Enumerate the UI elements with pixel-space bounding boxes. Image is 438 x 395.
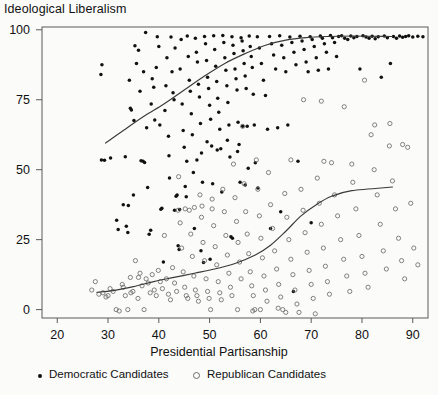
data-point (367, 36, 371, 40)
data-point (278, 34, 282, 38)
data-point (279, 210, 283, 214)
data-point (251, 294, 255, 298)
data-point (189, 232, 193, 236)
x-tick-label: 30 (101, 328, 115, 340)
data-point (133, 259, 137, 263)
data-point (259, 236, 263, 240)
x-tick-label: 20 (50, 328, 64, 340)
data-point (407, 34, 411, 38)
data-point (156, 268, 160, 272)
data-point (398, 34, 402, 38)
data-point (312, 45, 316, 49)
data-point (135, 62, 139, 66)
data-point (158, 123, 162, 127)
data-point (204, 277, 208, 281)
data-point (189, 90, 193, 94)
data-point (224, 233, 228, 237)
data-point (380, 76, 384, 80)
data-point (144, 31, 148, 35)
data-point (162, 260, 166, 264)
data-point (218, 127, 222, 131)
x-tick-label: 70 (304, 328, 318, 340)
data-point (201, 181, 205, 185)
data-point (247, 252, 251, 256)
data-point (409, 201, 413, 205)
data-point (276, 306, 280, 310)
data-point (207, 87, 211, 91)
data-point (323, 264, 327, 268)
data-point (148, 291, 152, 295)
data-point (198, 95, 202, 99)
data-point (209, 308, 213, 312)
data-point (375, 193, 379, 197)
data-point (213, 48, 217, 52)
data-point (162, 233, 166, 237)
data-point (248, 270, 252, 274)
data-point (363, 271, 367, 275)
data-point (203, 35, 207, 39)
data-point (169, 35, 173, 39)
data-point (240, 39, 244, 43)
data-point (301, 98, 305, 102)
data-point (393, 207, 397, 211)
data-point (335, 214, 339, 218)
data-point (132, 193, 136, 197)
data-point (345, 274, 349, 278)
data-point (225, 253, 229, 257)
data-point (208, 104, 212, 108)
data-point (239, 277, 243, 281)
data-point (212, 224, 216, 228)
data-point (209, 118, 213, 122)
data-point (260, 256, 264, 260)
data-point (168, 176, 172, 180)
data-point (224, 69, 228, 73)
data-point (124, 155, 128, 159)
data-point (219, 298, 223, 302)
data-point (155, 66, 159, 70)
data-point (210, 207, 214, 211)
data-point (172, 281, 176, 285)
data-point (170, 70, 174, 74)
data-point (215, 80, 219, 84)
data-point (294, 63, 298, 67)
data-point (128, 275, 132, 279)
data-point (175, 193, 179, 197)
data-point (325, 280, 329, 284)
data-point (93, 280, 97, 284)
data-point (205, 59, 209, 63)
data-point (149, 102, 153, 106)
data-point (218, 291, 222, 295)
data-point (388, 121, 392, 125)
data-point (369, 133, 373, 137)
data-point (412, 246, 416, 250)
data-point (122, 203, 126, 207)
data-point (187, 55, 191, 59)
data-point (228, 155, 232, 159)
data-point (198, 193, 202, 197)
data-point (342, 105, 346, 109)
data-point (186, 34, 190, 38)
data-point (236, 240, 240, 244)
data-point (416, 34, 420, 38)
data-point (421, 35, 425, 39)
data-point (174, 289, 178, 293)
data-point (381, 249, 385, 253)
x-tick-label: 90 (406, 328, 420, 340)
data-point (288, 35, 292, 39)
open-circle-icon (193, 372, 200, 379)
data-point (228, 285, 232, 289)
data-point (256, 35, 260, 39)
data-point (116, 228, 120, 232)
data-point (302, 48, 306, 52)
data-point (210, 144, 214, 148)
data-point (245, 232, 249, 236)
scatter-plot-figure: Ideological Liberalism 20304050607080900… (0, 0, 438, 395)
legend-label-republican: Republican Candidates (207, 368, 326, 380)
x-tick-label: 40 (152, 328, 166, 340)
x-tick-label: 50 (203, 328, 217, 340)
data-point (250, 284, 254, 288)
data-point (227, 271, 231, 275)
data-point (231, 162, 235, 166)
data-point (103, 158, 107, 162)
data-point (237, 143, 241, 147)
